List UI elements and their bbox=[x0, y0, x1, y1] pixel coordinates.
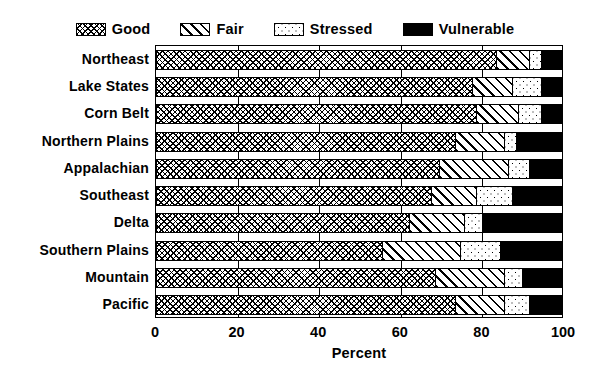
bar-track bbox=[156, 159, 562, 179]
bar-track bbox=[156, 186, 562, 206]
y-axis-label-pacific: Pacific bbox=[102, 294, 149, 314]
bar-track bbox=[156, 104, 562, 124]
bar-track bbox=[156, 268, 562, 288]
bar-track bbox=[156, 77, 562, 97]
legend-item-fair: Fair bbox=[180, 22, 243, 37]
bar-segment-good bbox=[156, 241, 383, 261]
bar-row-southern-plains bbox=[156, 241, 562, 261]
bar-row-northern-plains bbox=[156, 132, 562, 152]
legend-item-stressed: Stressed bbox=[274, 22, 373, 37]
legend-label-fair: Fair bbox=[216, 22, 243, 37]
bar-track bbox=[156, 132, 562, 152]
bar-segment-good bbox=[156, 132, 456, 152]
bar-segment-fair bbox=[410, 213, 465, 233]
legend-label-vulnerable: Vulnerable bbox=[439, 22, 515, 37]
y-axis-label-northeast: Northeast bbox=[82, 49, 149, 69]
x-axis-title: Percent bbox=[155, 345, 563, 361]
legend-swatch-good-icon bbox=[76, 23, 106, 36]
legend-swatch-stressed-icon bbox=[274, 23, 304, 36]
bar-segment-vulnerable bbox=[542, 50, 562, 70]
x-axis-ticks: 020406080100 bbox=[155, 322, 563, 342]
bar-segment-fair bbox=[456, 295, 505, 315]
bar-row-delta bbox=[156, 213, 562, 233]
bar-segment-stressed bbox=[509, 159, 529, 179]
bar-segment-fair bbox=[473, 77, 514, 97]
x-axis-tick-40: 40 bbox=[310, 322, 326, 342]
plot-inner bbox=[156, 46, 562, 317]
bar-segment-good bbox=[156, 77, 473, 97]
bar-row-pacific bbox=[156, 295, 562, 315]
bar-row-lake-states bbox=[156, 77, 562, 97]
x-axis-tick-0: 0 bbox=[151, 322, 159, 342]
bar-row-corn-belt bbox=[156, 104, 562, 124]
bar-segment-vulnerable bbox=[530, 295, 562, 315]
bar-segment-vulnerable bbox=[517, 132, 562, 152]
bar-row-northeast bbox=[156, 50, 562, 70]
bar-segment-vulnerable bbox=[542, 77, 562, 97]
stacked-bar-chart: Good Fair Stressed Vulnerable NortheastL… bbox=[0, 0, 590, 392]
bar-segment-stressed bbox=[513, 77, 541, 97]
bar-segment-fair bbox=[436, 268, 505, 288]
bar-segment-fair bbox=[432, 186, 477, 206]
bar-segment-vulnerable bbox=[483, 213, 562, 233]
bar-segment-vulnerable bbox=[513, 186, 562, 206]
y-axis-label-southeast: Southeast bbox=[80, 185, 149, 205]
bar-segment-stressed bbox=[461, 241, 502, 261]
bar-track bbox=[156, 50, 562, 70]
plot-area bbox=[155, 45, 563, 318]
bar-track bbox=[156, 295, 562, 315]
bar-segment-stressed bbox=[530, 50, 542, 70]
bar-row-appalachian bbox=[156, 159, 562, 179]
bar-segment-vulnerable bbox=[542, 104, 562, 124]
y-axis-label-mountain: Mountain bbox=[85, 267, 149, 287]
bar-segment-vulnerable bbox=[530, 159, 562, 179]
bar-segment-fair bbox=[477, 104, 520, 124]
bar-segment-fair bbox=[456, 132, 505, 152]
bar-segment-vulnerable bbox=[501, 241, 562, 261]
bar-segment-stressed bbox=[465, 213, 483, 233]
legend-swatch-fair-icon bbox=[180, 23, 210, 36]
y-axis-label-southern-plains: Southern Plains bbox=[39, 240, 149, 260]
bar-segment-stressed bbox=[477, 186, 514, 206]
legend-item-vulnerable: Vulnerable bbox=[403, 22, 515, 37]
x-axis-tick-100: 100 bbox=[551, 322, 575, 342]
bar-segment-good bbox=[156, 268, 436, 288]
chart-legend: Good Fair Stressed Vulnerable bbox=[0, 18, 590, 40]
bar-segment-good bbox=[156, 159, 440, 179]
bar-segment-fair bbox=[497, 50, 529, 70]
y-axis-label-delta: Delta bbox=[114, 212, 149, 232]
y-axis-label-appalachian: Appalachian bbox=[64, 158, 149, 178]
bar-segment-fair bbox=[440, 159, 509, 179]
bar-segment-good bbox=[156, 50, 497, 70]
x-axis-tick-60: 60 bbox=[392, 322, 408, 342]
bar-track bbox=[156, 213, 562, 233]
legend-label-good: Good bbox=[112, 22, 151, 37]
bar-segment-fair bbox=[383, 241, 460, 261]
y-axis-label-northern-plains: Northern Plains bbox=[42, 131, 149, 151]
bar-segment-vulnerable bbox=[523, 268, 562, 288]
y-axis-label-lake-states: Lake States bbox=[69, 76, 149, 96]
bar-row-mountain bbox=[156, 268, 562, 288]
bar-segment-good bbox=[156, 213, 410, 233]
bar-segment-stressed bbox=[505, 268, 523, 288]
bar-row-southeast bbox=[156, 186, 562, 206]
x-axis-tick-80: 80 bbox=[473, 322, 489, 342]
bar-segment-stressed bbox=[505, 132, 517, 152]
y-axis-labels: NortheastLake StatesCorn BeltNorthern Pl… bbox=[0, 45, 149, 318]
legend-label-stressed: Stressed bbox=[310, 22, 373, 37]
bar-segment-good bbox=[156, 186, 432, 206]
x-axis-tick-20: 20 bbox=[229, 322, 245, 342]
bar-segment-good bbox=[156, 104, 477, 124]
legend-swatch-vulnerable-icon bbox=[403, 23, 433, 36]
y-axis-label-corn-belt: Corn Belt bbox=[84, 103, 149, 123]
bar-segment-stressed bbox=[519, 104, 541, 124]
legend-item-good: Good bbox=[76, 22, 151, 37]
bar-segment-stressed bbox=[505, 295, 529, 315]
bar-track bbox=[156, 241, 562, 261]
bar-segment-good bbox=[156, 295, 456, 315]
